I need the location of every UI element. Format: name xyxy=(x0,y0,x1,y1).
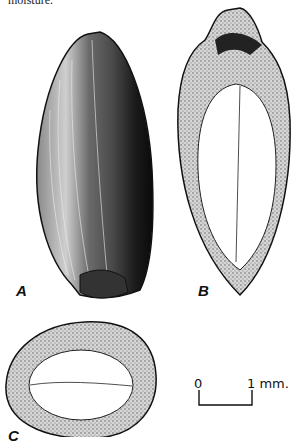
figure-label-c: C xyxy=(8,427,19,444)
scale-start-label: 0 xyxy=(194,376,202,391)
figure-label-b: B xyxy=(198,282,209,299)
figure-b-longitudinal-section xyxy=(178,8,290,295)
figure-label-a: A xyxy=(16,282,27,299)
figure-a-seed xyxy=(37,32,153,298)
figure-c-cross-section xyxy=(6,322,156,437)
scale-end-label: 1 mm. xyxy=(247,376,289,391)
scale-bar xyxy=(199,390,252,405)
